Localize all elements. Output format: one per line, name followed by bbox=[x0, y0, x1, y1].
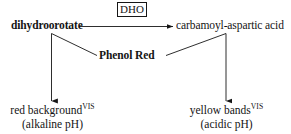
reactant-label: dihydroorotate bbox=[11, 19, 83, 31]
reaction-diagram: dihydroorotate DHO carbamoyl-aspartic ac… bbox=[0, 0, 291, 134]
diagonal-left-to-indicator bbox=[52, 34, 98, 56]
outcome-right-main-text: yellow bands bbox=[190, 104, 251, 116]
outcome-right: yellow bandsVIS (acidic pH) bbox=[174, 103, 279, 131]
outcome-left-superscript: VIS bbox=[82, 102, 95, 111]
outcome-left-main-line: red backgroundVIS bbox=[0, 103, 105, 117]
outcome-right-condition: (acidic pH) bbox=[174, 117, 279, 131]
indicator-label: Phenol Red bbox=[99, 49, 155, 61]
enzyme-label: DHO bbox=[120, 4, 144, 15]
outcome-right-superscript: VIS bbox=[251, 102, 264, 111]
outcome-left: red backgroundVIS (alkaline pH) bbox=[0, 103, 105, 131]
product-label: carbamoyl-aspartic acid bbox=[176, 19, 284, 31]
outcome-left-condition: (alkaline pH) bbox=[0, 117, 105, 131]
outcome-right-main-line: yellow bandsVIS bbox=[174, 103, 279, 117]
outcome-left-main-text: red background bbox=[10, 104, 82, 116]
diagonal-right-to-indicator bbox=[166, 34, 226, 56]
enzyme-box: DHO bbox=[117, 2, 147, 17]
